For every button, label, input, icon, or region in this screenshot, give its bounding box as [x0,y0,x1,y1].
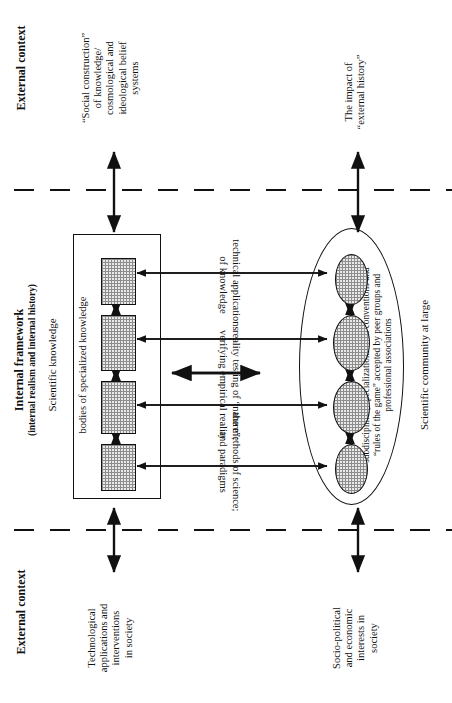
community-node [333,381,370,434]
knowledge-node [101,258,136,305]
scientific-knowledge-heading: Scientific knowledge [46,318,59,411]
line: the methods of science; [229,413,242,512]
line: professional associations [384,267,395,463]
line: and paradigms [216,413,229,512]
bottom-item-technological-applications: Technological applications and intervent… [86,604,135,673]
top-item-impact-external-history: The impact of “external history” [343,55,367,130]
line: in society [122,604,134,673]
subdisciplines-label: subdisciplines, specializations with con… [361,267,394,463]
line: ideological belief [116,33,128,123]
zone-label-external-context-top: External context [15,26,29,111]
internal-framework-title: Internal framework [12,284,27,436]
community-node [333,315,370,371]
top-item-social-construction: “Social construction” of knowledge/ cosm… [80,33,141,123]
bodies-of-specialized-knowledge-label: bodies of specialized knowledge [77,297,89,434]
line: “rules of the game” accepted by peer gro… [372,267,383,463]
line: “Social construction” [80,33,92,123]
zone-label-external-context-bottom: External context [15,570,29,655]
line: interests in [355,607,367,669]
zone-label-internal-framework: Internal framework (internal realism and… [12,284,37,436]
line: applications and [98,604,110,673]
knowledge-node [101,315,136,371]
line: Technological [86,604,98,673]
connector-label-technical-applications: technical applications of knowledge [216,239,241,330]
internal-framework-subtitle: (internal realism and internal history) [27,284,37,436]
line: Socio-political [331,607,343,669]
bottom-item-socio-political-interests: Socio-political and economic interests i… [331,607,380,669]
knowledge-node [101,381,136,434]
diagram-canvas: External context External context Intern… [0,0,452,703]
knowledge-node [101,444,136,491]
line: The impact of [343,55,355,130]
connector-label-methods-of-science: the methods of science; and paradigms [216,413,241,512]
line: and economic [343,607,355,669]
line: “external history” [355,55,367,130]
line: of knowledge/ [92,33,104,123]
line: technical applications [229,239,242,330]
community-node [335,444,368,494]
line: interventions [110,604,122,673]
community-node [335,254,368,305]
line: society [367,607,379,669]
line: cosmological and [104,33,116,123]
line: of knowledge [216,239,229,330]
scientific-community-heading: Scientific community at large [418,300,431,430]
line: systems [128,33,140,123]
